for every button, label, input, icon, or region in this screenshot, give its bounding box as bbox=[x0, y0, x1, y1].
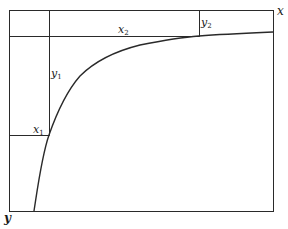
y-axis-label: y bbox=[4, 212, 11, 224]
y2-label: y2 bbox=[201, 17, 212, 30]
x2-label-sub: 2 bbox=[124, 29, 128, 37]
x-axis-label: x bbox=[277, 5, 284, 17]
x1-label: x1 bbox=[33, 124, 44, 137]
y1-label: y1 bbox=[51, 68, 62, 81]
diagram-canvas bbox=[0, 0, 288, 229]
y1-label-sub: 1 bbox=[57, 73, 61, 81]
saturation-curve bbox=[34, 32, 273, 211]
x1-label-sub: 1 bbox=[39, 129, 43, 137]
y2-label-sub: 2 bbox=[207, 22, 211, 30]
asymptotic-curve-diagram: x y x2 y2 y1 x1 bbox=[0, 0, 288, 229]
x2-label: x2 bbox=[118, 24, 129, 37]
